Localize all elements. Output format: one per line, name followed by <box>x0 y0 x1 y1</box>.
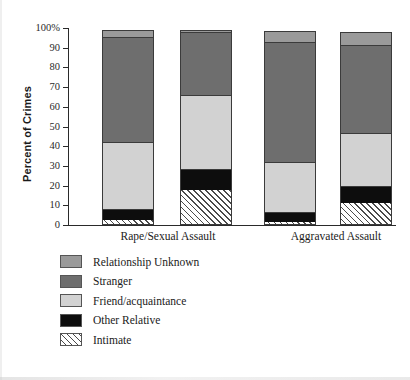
segment-intimate[interactable] <box>102 220 154 225</box>
segment-stranger[interactable] <box>180 32 232 95</box>
legend-item-stranger[interactable]: Stranger <box>60 272 199 292</box>
legend-label-relationship-unknown: Relationship Unknown <box>93 256 199 268</box>
y-tick-label-100: 100% <box>36 23 61 34</box>
legend-swatch-other-relative <box>60 314 82 327</box>
segment-intimate[interactable] <box>264 222 316 225</box>
legend-label-other-relative: Other Relative <box>93 314 160 326</box>
group-label-rape: Rape/Sexual Assault <box>78 230 258 242</box>
y-tick-label-10: 10 <box>50 200 61 211</box>
group-label-aggravated: Aggravated Assault <box>236 230 410 242</box>
y-tick-label-60: 60 <box>50 102 61 113</box>
legend-swatch-friend-acquaintance <box>60 294 82 307</box>
segment-stranger[interactable] <box>340 45 392 134</box>
segment-unknown[interactable] <box>264 31 316 42</box>
y-tick-90 <box>63 48 68 49</box>
legend-item-relationship-unknown[interactable]: Relationship Unknown <box>60 252 199 272</box>
segment-unknown[interactable] <box>340 32 392 45</box>
segment-unknown[interactable] <box>102 30 154 37</box>
segment-friend[interactable] <box>264 162 316 212</box>
y-tick-40 <box>63 146 68 147</box>
legend-label-friend-acquaintance: Friend/acquaintance <box>93 295 186 307</box>
segment-other-relative[interactable] <box>264 212 316 222</box>
y-tick-label-20: 20 <box>50 180 61 191</box>
segment-friend[interactable] <box>340 133 392 185</box>
segment-other-relative[interactable] <box>180 169 232 190</box>
legend: Relationship Unknown Stranger Friend/acq… <box>60 252 199 350</box>
y-tick-20 <box>63 186 68 187</box>
legend-item-intimate[interactable]: Intimate <box>60 330 199 350</box>
y-tick-label-0: 0 <box>55 220 60 231</box>
segment-unknown[interactable] <box>180 30 232 32</box>
y-tick-100 <box>63 28 68 29</box>
segment-other-relative[interactable] <box>102 209 154 220</box>
y-tick-30 <box>63 166 68 167</box>
y-tick-70 <box>63 87 68 88</box>
legend-swatch-stranger <box>60 275 82 288</box>
y-tick-50 <box>63 127 68 128</box>
legend-item-other-relative[interactable]: Other Relative <box>60 311 199 331</box>
chart-container: Percent of Crimes 100% 90 80 70 60 50 40… <box>0 0 410 380</box>
y-tick-label-30: 30 <box>50 161 61 172</box>
segment-stranger[interactable] <box>264 42 316 162</box>
y-tick-label-70: 70 <box>50 82 61 93</box>
segment-other-relative[interactable] <box>340 186 392 204</box>
y-tick-10 <box>63 205 68 206</box>
scan-edge-left <box>0 0 2 380</box>
y-tick-label-50: 50 <box>50 121 61 132</box>
segment-intimate[interactable] <box>180 190 232 225</box>
segment-friend[interactable] <box>180 95 232 169</box>
legend-swatch-relationship-unknown <box>60 255 82 268</box>
legend-label-stranger: Stranger <box>93 275 132 287</box>
y-axis-title: Percent of Crimes <box>21 59 33 209</box>
y-axis-line <box>68 28 69 225</box>
segment-stranger[interactable] <box>102 37 154 142</box>
segment-friend[interactable] <box>102 142 154 209</box>
y-tick-0 <box>63 225 68 226</box>
legend-item-friend-acquaintance[interactable]: Friend/acquaintance <box>60 291 199 311</box>
legend-label-intimate: Intimate <box>93 334 131 346</box>
plot-area: 100% 90 80 70 60 50 40 30 20 10 0 Men <box>68 28 396 225</box>
y-tick-label-80: 80 <box>50 62 61 73</box>
y-tick-60 <box>63 107 68 108</box>
legend-swatch-intimate <box>60 333 82 346</box>
y-tick-label-40: 40 <box>50 141 61 152</box>
segment-intimate[interactable] <box>340 203 392 225</box>
y-tick-80 <box>63 67 68 68</box>
x-axis-line <box>68 225 396 226</box>
y-tick-label-90: 90 <box>50 42 61 53</box>
